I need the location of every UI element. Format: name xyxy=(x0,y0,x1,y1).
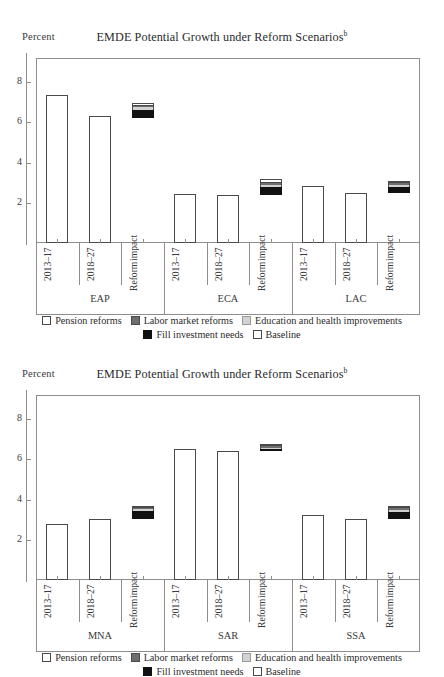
chart-panel-top: Percent EMDE Potential Growth under Refo… xyxy=(0,25,444,329)
plot-area-bottom: 24682013–172018–27ReformimpactMNA2013–17… xyxy=(0,390,444,666)
y-axis-tick-mark xyxy=(26,419,31,420)
legend-item[interactable]: Baseline xyxy=(253,329,301,340)
legend-label: Education and health improvements xyxy=(255,652,402,663)
x-axis-group-label: ECA xyxy=(164,293,292,304)
chart-title-superscript: b xyxy=(344,366,348,375)
group-divider xyxy=(164,243,165,315)
chart-title-text: EMDE Potential Growth under Reform Scena… xyxy=(97,367,344,381)
y-axis-tick-mark xyxy=(26,82,31,83)
legend-item[interactable]: Baseline xyxy=(253,666,301,677)
group-divider xyxy=(164,580,165,652)
x-axis-category-label: 2018–27 xyxy=(342,584,370,628)
legend-item[interactable]: Pension reforms xyxy=(42,315,122,326)
legend-label: Pension reforms xyxy=(55,652,122,663)
x-label-line: Reform xyxy=(385,599,413,628)
bar-segment-invest xyxy=(132,110,154,118)
y-axis-tick-label: 4 xyxy=(0,493,22,504)
y-axis-tick-label: 6 xyxy=(0,115,22,126)
x-axis-category-label: 2013–17 xyxy=(299,247,327,291)
legend-item[interactable]: Labor market reforms xyxy=(131,315,233,326)
x-axis-category-label: Reformimpact xyxy=(257,247,285,291)
bar-segment-pension xyxy=(132,103,154,105)
y-axis-tick-label: 2 xyxy=(0,196,22,207)
legend-swatch-icon xyxy=(42,653,51,662)
chart-title: EMDE Potential Growth under Reform Scena… xyxy=(0,366,444,382)
plot-area-top: 24682013–172018–27ReformimpactEAP2013–17… xyxy=(0,53,444,329)
x-axis-group-label: EAP xyxy=(36,293,164,304)
category-divider xyxy=(207,580,208,622)
x-axis-tick-mark xyxy=(185,576,186,580)
category-divider xyxy=(207,243,208,285)
x-axis-category-label: Reformimpact xyxy=(385,247,413,291)
legend-row: Fill investment needsBaseline xyxy=(0,666,444,677)
bar-segment-invest xyxy=(260,449,282,451)
bar-segment-edu xyxy=(260,185,282,187)
y-axis-tick-mark xyxy=(26,163,31,164)
x-axis-tick-mark xyxy=(356,239,357,243)
legend-label: Fill investment needs xyxy=(156,329,243,340)
legend-item[interactable]: Education and health improvements xyxy=(242,652,402,663)
legend-swatch-icon xyxy=(242,653,251,662)
x-label-line: impact xyxy=(257,235,285,261)
legend-row: Fill investment needsBaseline xyxy=(0,329,444,340)
category-divider xyxy=(79,580,80,622)
legend-swatch-icon xyxy=(131,653,140,662)
panel-header: Percent EMDE Potential Growth under Refo… xyxy=(0,25,444,53)
legend-item[interactable]: Fill investment needs xyxy=(143,329,243,340)
bar-baseline xyxy=(217,451,239,580)
legend-row: Pension reformsLabor market reformsEduca… xyxy=(0,652,444,663)
legend-item[interactable]: Fill investment needs xyxy=(143,666,243,677)
x-axis-category-label: Reformimpact xyxy=(385,584,413,628)
legend-item[interactable]: Labor market reforms xyxy=(131,652,233,663)
bar-baseline xyxy=(302,186,324,243)
x-axis-category-label: 2018–27 xyxy=(214,584,242,628)
legend-row: Pension reformsLabor market reformsEduca… xyxy=(0,315,444,326)
x-axis-category-label: 2018–27 xyxy=(342,247,370,291)
x-label-line: impact xyxy=(385,235,413,261)
bar-segment-pension xyxy=(388,181,410,183)
x-axis-category-label: 2018–27 xyxy=(86,584,114,628)
y-axis-tick-mark xyxy=(26,540,31,541)
y-axis-tick-label: 8 xyxy=(0,75,22,86)
x-axis-group-label: SSA xyxy=(292,630,420,641)
x-axis-tick-mark xyxy=(313,576,314,580)
x-axis-category-label: 2018–27 xyxy=(86,247,114,291)
legend-top: Pension reformsLabor market reformsEduca… xyxy=(0,315,444,340)
legend-swatch-icon xyxy=(242,316,251,325)
bar-baseline xyxy=(89,519,111,580)
x-label-line: Reform xyxy=(129,599,157,628)
x-axis-group-label: MNA xyxy=(36,630,164,641)
bar-segment-invest xyxy=(132,511,154,519)
y-axis-tick-mark xyxy=(26,500,31,501)
bar-baseline xyxy=(345,193,367,243)
panel-header: Percent EMDE Potential Growth under Refo… xyxy=(0,362,444,390)
legend-label: Fill investment needs xyxy=(156,666,243,677)
bar-segment-pension xyxy=(260,179,282,183)
bar-segment-edu xyxy=(388,510,410,512)
bar-segment-pension xyxy=(260,444,282,446)
legend-swatch-icon xyxy=(42,316,51,325)
bar-segment-invest xyxy=(388,187,410,193)
x-label-line: impact xyxy=(257,572,285,598)
legend-item[interactable]: Pension reforms xyxy=(42,652,122,663)
x-axis-category-label: Reformimpact xyxy=(129,247,157,291)
y-axis-tick-mark xyxy=(26,459,31,460)
legend-item[interactable]: Education and health improvements xyxy=(242,315,402,326)
category-divider xyxy=(249,243,250,285)
x-label-line: impact xyxy=(129,235,157,261)
x-axis-category-label: 2018–27 xyxy=(214,247,242,291)
legend-label: Pension reforms xyxy=(55,315,122,326)
legend-label: Labor market reforms xyxy=(144,315,233,326)
legend-label: Baseline xyxy=(266,329,301,340)
bar-baseline xyxy=(174,449,196,580)
x-axis-category-label: 2013–17 xyxy=(299,584,327,628)
group-divider xyxy=(292,243,293,315)
y-axis-tick-label: 4 xyxy=(0,156,22,167)
x-label-line: impact xyxy=(385,572,413,598)
category-divider xyxy=(249,580,250,622)
legend-label: Labor market reforms xyxy=(144,652,233,663)
x-axis-tick-mark xyxy=(100,576,101,580)
legend-swatch-icon xyxy=(253,667,262,676)
category-divider xyxy=(79,243,80,285)
